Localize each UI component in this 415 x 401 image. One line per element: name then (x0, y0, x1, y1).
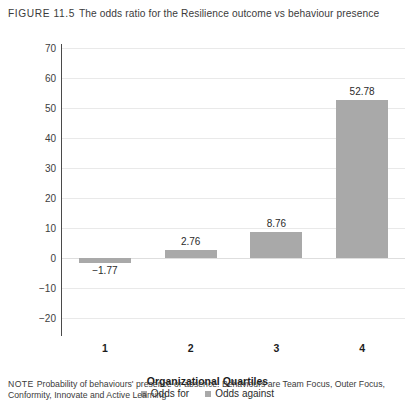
note-text: Probability of behaviours' presence or a… (8, 379, 385, 400)
y-tick-label: 40 (4, 133, 56, 144)
y-tick-label: 30 (4, 163, 56, 174)
note-label: NOTE (8, 379, 34, 389)
bar[interactable] (79, 258, 131, 263)
y-tick-label: 70 (4, 43, 56, 54)
x-tick-label: 4 (359, 342, 365, 354)
y-tick-label: 0 (4, 253, 56, 264)
bar-value-label: 52.78 (350, 86, 375, 97)
bar[interactable] (250, 232, 302, 258)
bar[interactable] (336, 100, 388, 258)
bar-chart: 706050403020100−10−20 −1.772.768.7652.78… (0, 30, 415, 330)
bar-value-label: 2.76 (181, 236, 200, 247)
y-tick-label: 20 (4, 193, 56, 204)
plot-area: −1.772.768.7652.78 (62, 48, 405, 318)
gridline (62, 318, 405, 319)
figure-note: NOTEProbability of behaviours' presence … (8, 379, 408, 401)
x-tick-label: 3 (273, 342, 279, 354)
bar-value-label: −1.77 (92, 265, 117, 276)
figure-caption: FIGURE 11.5The odds ratio for the Resili… (8, 8, 408, 19)
bar-value-label: 8.76 (267, 218, 286, 229)
gridline (62, 288, 405, 289)
gridline (62, 48, 405, 49)
y-tick-label: 60 (4, 73, 56, 84)
x-tick-label: 2 (188, 342, 194, 354)
y-tick-label: 50 (4, 103, 56, 114)
gridline (62, 78, 405, 79)
y-tick-label: 10 (4, 223, 56, 234)
y-axis-tick-labels: 706050403020100−10−20 (0, 48, 56, 318)
y-tick-label: −20 (4, 313, 56, 324)
figure-label: FIGURE 11.5 (8, 8, 75, 19)
y-tick-label: −10 (4, 283, 56, 294)
x-tick-label: 1 (102, 342, 108, 354)
figure-title: The odds ratio for the Resilience outcom… (79, 8, 379, 19)
bar[interactable] (165, 250, 217, 258)
